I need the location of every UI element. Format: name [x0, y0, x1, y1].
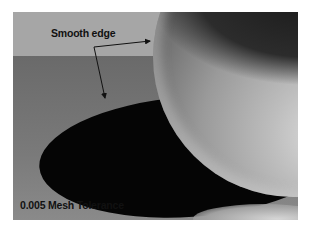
smooth-edge-label: Smooth edge [51, 27, 115, 39]
annotation-arrows-icon [0, 0, 311, 230]
mesh-tolerance-label: 0.005 Mesh Tolerance [20, 199, 124, 211]
